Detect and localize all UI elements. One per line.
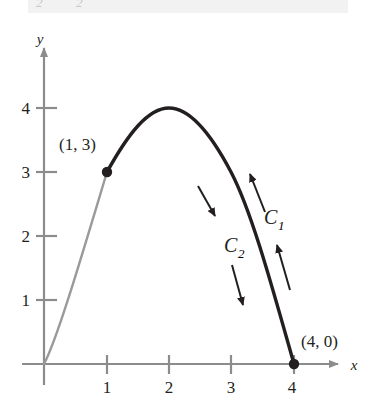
- point-marker-1-3: [102, 167, 112, 177]
- curve-label-c2: C 2: [224, 234, 245, 261]
- parabola-faint-segment: [44, 172, 107, 364]
- c2-arrow-upper: [198, 186, 215, 216]
- coordinate-plot: 4 3 2 1 1 2 3 4 y x C 1: [0, 0, 378, 411]
- point-marker-4-0: [289, 359, 299, 369]
- y-axis-label: y: [35, 31, 44, 47]
- x-tick-label-4: 4: [288, 378, 297, 397]
- y-tick-label-1: 1: [22, 291, 31, 310]
- curve-label-c2-letter: C: [224, 234, 238, 256]
- y-tick-label-4: 4: [22, 99, 31, 118]
- parabola-heavy-segment: [107, 108, 294, 364]
- y-tick-label-3: 3: [22, 163, 31, 182]
- x-axis-label: x: [350, 357, 358, 373]
- x-tick-label-3: 3: [227, 378, 236, 397]
- x-tick-label-2: 2: [165, 378, 174, 397]
- axis-group: [22, 48, 338, 385]
- point-label-4-0: (4, 0): [301, 332, 338, 351]
- curve-label-c1-letter: C: [264, 206, 278, 228]
- curve-label-c1: C 1: [264, 206, 285, 233]
- c2-arrow-lower: [232, 265, 243, 305]
- c1-arrow-upper: [250, 174, 265, 212]
- y-tick-label-2: 2: [22, 227, 31, 246]
- x-tick-label-1: 1: [103, 378, 112, 397]
- point-label-1-3: (1, 3): [59, 135, 96, 154]
- figure-root: 2 2: [0, 0, 378, 411]
- y-tick-marks: [36, 108, 57, 300]
- curve-label-c2-subscript: 2: [238, 246, 245, 261]
- curve-label-c1-subscript: 1: [278, 218, 285, 233]
- c1-arrow-lower: [277, 245, 290, 290]
